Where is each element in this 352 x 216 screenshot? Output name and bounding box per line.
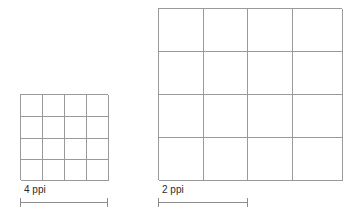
pixel-cell [248, 9, 293, 52]
pixel-cell [65, 117, 87, 139]
pixel-grid-4ppi [20, 94, 108, 180]
pixel-cell [248, 95, 293, 138]
scale-bar-tick-left [20, 198, 21, 207]
pixel-cell [87, 160, 109, 181]
pixel-cell [293, 52, 343, 95]
pixel-cell [248, 52, 293, 95]
pixel-cell [43, 117, 65, 139]
pixel-cell [43, 95, 65, 117]
pixel-cell [293, 138, 343, 181]
pixel-cell [21, 117, 43, 139]
scale-bar-tick-right [247, 198, 248, 207]
pixel-cell [248, 138, 293, 181]
ppi-comparison-diagram: 4 ppi 2 ppi [0, 0, 352, 216]
pixel-cell [65, 95, 87, 117]
scale-bar-tick-right [107, 198, 108, 207]
scale-bar-rule [20, 202, 108, 203]
pixel-cell [87, 117, 109, 139]
pixel-cell [159, 138, 204, 181]
pixel-cell [65, 160, 87, 181]
pixel-cell [204, 52, 248, 95]
pixel-cell [43, 160, 65, 181]
pixel-cell [87, 95, 109, 117]
pixel-cell [87, 139, 109, 160]
pixel-cell [204, 95, 248, 138]
pixel-grid-2ppi [158, 8, 342, 180]
scale-bar-rule [158, 202, 248, 203]
scale-bar-tick-left [158, 198, 159, 207]
scale-bar-2ppi [158, 198, 248, 207]
pixel-cell [204, 138, 248, 181]
scale-label-4ppi: 4 ppi [24, 184, 46, 196]
scale-bar-4ppi [20, 198, 108, 207]
pixel-cell [159, 9, 204, 52]
pixel-cell [293, 9, 343, 52]
pixel-cell [159, 95, 204, 138]
pixel-cell [204, 9, 248, 52]
pixel-cell [21, 95, 43, 117]
pixel-cell [21, 139, 43, 160]
pixel-cell [21, 160, 43, 181]
pixel-cell [293, 95, 343, 138]
pixel-cell [43, 139, 65, 160]
pixel-cell [159, 52, 204, 95]
scale-label-2ppi: 2 ppi [162, 184, 184, 196]
pixel-cell [65, 139, 87, 160]
